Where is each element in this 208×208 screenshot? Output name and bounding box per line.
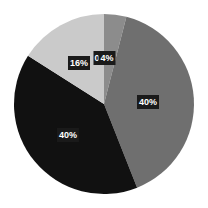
label-16pct-slice: 16%: [68, 56, 90, 70]
label-40pct-black-slice: 40%: [57, 128, 79, 142]
label-4pct-slice: 4%: [98, 51, 115, 65]
pie-chart: [0, 0, 208, 208]
label-40pct-gray-slice: 40%: [137, 95, 159, 109]
